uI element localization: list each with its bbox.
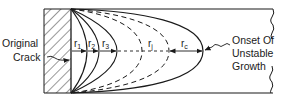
label-rc: rc <box>181 38 188 50</box>
onset-label: Onset Of Unstable Growth <box>205 34 274 72</box>
original-crack-region <box>44 9 71 93</box>
svg-text:Onset Of: Onset Of <box>232 34 274 46</box>
label-r2: r2 <box>88 38 95 50</box>
svg-text:Growth: Growth <box>232 60 266 72</box>
svg-text:Crack: Crack <box>13 51 41 63</box>
label-r3: r3 <box>102 38 109 50</box>
label-rj: rj <box>148 38 153 51</box>
svg-text:Original: Original <box>2 37 38 49</box>
radius-labels: r1 r2 r3 rj rc <box>74 38 188 51</box>
svg-text:Unstable: Unstable <box>232 47 274 59</box>
label-r1: r1 <box>74 38 81 50</box>
leader-squiggle-icon <box>205 44 230 51</box>
crack-growth-diagram: r1 r2 r3 rj rc Original Crack Onset Of U… <box>0 0 292 109</box>
